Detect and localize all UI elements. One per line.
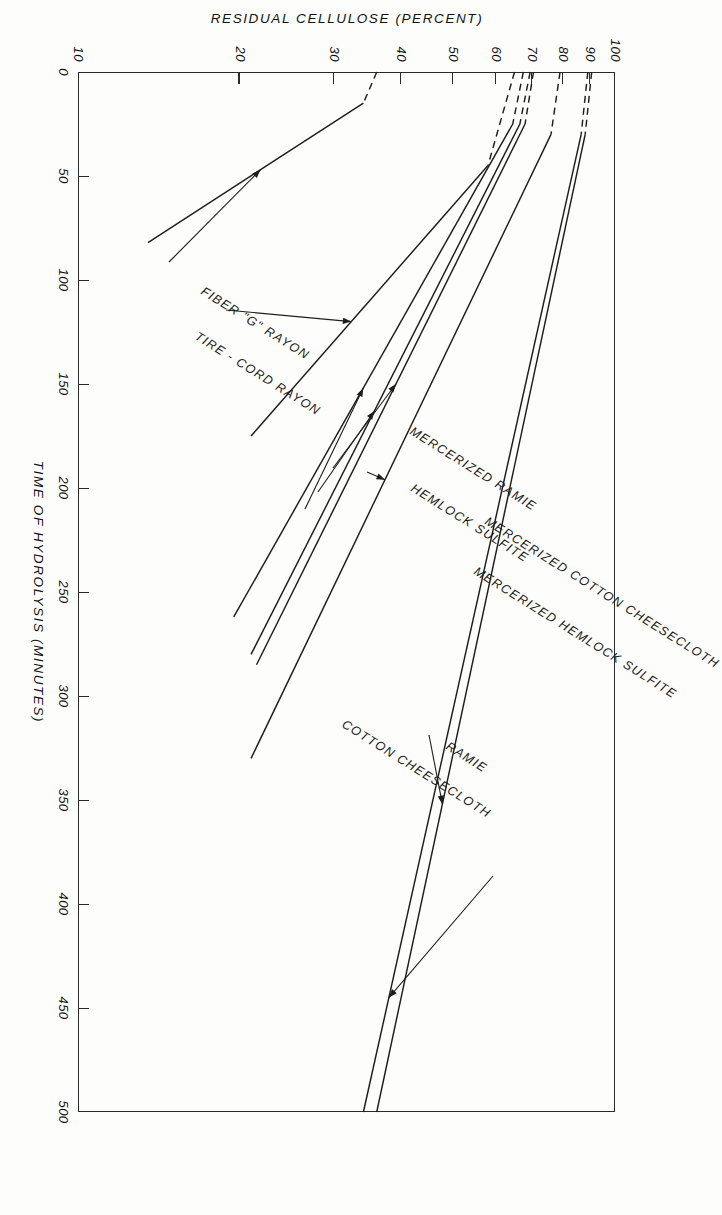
x-tick-label: 450: [56, 996, 71, 1019]
x-tick-label: 300: [56, 684, 71, 707]
y-tick-label: 50: [446, 47, 461, 62]
y-tick-label: 20: [232, 47, 247, 62]
x-tick-label: 200: [56, 476, 71, 499]
y-tick: [589, 73, 590, 84]
x-tick-label: 100: [56, 268, 71, 291]
x-tick-label: 250: [56, 580, 71, 603]
y-tick: [452, 73, 453, 84]
x-tick: [78, 488, 89, 489]
x-tick: [78, 280, 89, 281]
y-tick-label: 60: [488, 47, 503, 62]
x-tick: [78, 592, 89, 593]
x-tick: [78, 800, 89, 801]
y-axis-title: RESIDUAL CELLULOSE (PERCENT): [211, 11, 484, 26]
y-tick-label: 80: [555, 47, 570, 62]
x-tick-label: 500: [56, 1100, 71, 1123]
y-tick-label: 100: [608, 39, 623, 62]
x-tick: [78, 696, 89, 697]
x-tick-label: 350: [56, 788, 71, 811]
x-axis-title: TIME OF HYDROLYSIS (MINUTES): [31, 461, 46, 723]
plot-frame: [78, 72, 615, 1112]
x-tick: [78, 384, 89, 385]
y-tick-label: 30: [327, 47, 342, 62]
x-tick-label: 150: [56, 372, 71, 395]
x-tick-label: 0: [56, 68, 71, 76]
x-tick: [78, 904, 89, 905]
x-tick: [78, 1008, 89, 1009]
y-tick: [400, 73, 401, 84]
x-tick: [78, 176, 89, 177]
y-tick: [333, 73, 334, 84]
y-tick-label: 70: [524, 47, 539, 62]
y-tick-label: 10: [71, 47, 86, 62]
y-tick-label: 90: [583, 47, 598, 62]
y-tick: [531, 73, 532, 84]
x-tick-label: 50: [56, 168, 71, 183]
x-tick-label: 400: [56, 892, 71, 915]
y-tick-label: 40: [394, 47, 409, 62]
y-tick: [562, 73, 563, 84]
y-tick: [495, 73, 496, 84]
y-tick: [238, 73, 239, 84]
